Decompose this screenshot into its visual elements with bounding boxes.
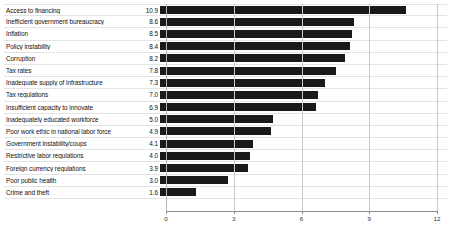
bar	[160, 164, 248, 172]
value-label: 6.9	[132, 104, 160, 111]
bar-cell	[160, 89, 447, 100]
bar-cell	[160, 5, 447, 15]
bar	[160, 30, 352, 38]
bar-cell	[160, 102, 447, 113]
value-label: 7.3	[132, 79, 160, 86]
bar-cell	[160, 77, 447, 88]
bar-cell	[160, 41, 447, 52]
bar-cell	[160, 16, 447, 27]
chart-row: Insufficient capacity to innovate6.9	[4, 102, 447, 114]
chart-row: Government instability/coups4.1	[4, 138, 447, 150]
bar-cell	[160, 150, 447, 161]
x-tick-0	[166, 211, 167, 214]
category-label: Inflation	[4, 30, 132, 37]
bar-cell	[160, 162, 447, 173]
category-label: Access to financing	[4, 7, 132, 14]
chart-row: Crime and theft1.6	[4, 187, 447, 199]
category-label: Crime and theft	[4, 189, 132, 196]
bar	[160, 67, 336, 75]
bar	[160, 115, 273, 123]
chart-row: Foreign currency regulations3.9	[4, 162, 447, 174]
value-label: 8.6	[132, 18, 160, 25]
chart-row: Access to financing10.9	[4, 4, 447, 16]
bar	[160, 42, 350, 50]
value-label: 3.9	[132, 165, 160, 172]
x-axis: 036912	[166, 211, 437, 229]
category-label: Tax rates	[4, 67, 132, 74]
value-label: 8.4	[132, 43, 160, 50]
category-label: Poor work ethic in national labor force	[4, 128, 132, 135]
bar	[160, 91, 318, 99]
chart-row: Poor public health3.0	[4, 175, 447, 187]
chart-row: Inflation8.5	[4, 28, 447, 40]
category-label: Restrictive labor regulations	[4, 152, 132, 159]
x-tick-label: 0	[164, 215, 167, 222]
value-label: 7.8	[132, 67, 160, 74]
value-label: 10.9	[132, 7, 160, 14]
category-label: Inadequate supply of infrastructure	[4, 79, 132, 86]
x-tick-9	[369, 211, 370, 214]
bar	[160, 152, 250, 160]
chart-row: Corruption8.2	[4, 53, 447, 65]
value-label: 8.2	[132, 55, 160, 62]
x-tick-12	[437, 211, 438, 214]
bar	[160, 176, 228, 184]
value-label: 4.0	[132, 152, 160, 159]
chart-row: Restrictive labor regulations4.0	[4, 150, 447, 162]
chart-row: Inadequate supply of infrastructure7.3	[4, 77, 447, 89]
chart-row: Inefficient government bureaucracy8.6	[4, 16, 447, 28]
x-tick-6	[302, 211, 303, 214]
bar-cell	[160, 175, 447, 186]
category-label: Policy instability	[4, 43, 132, 50]
value-label: 5.0	[132, 116, 160, 123]
bar-cell	[160, 114, 447, 125]
category-label: Corruption	[4, 55, 132, 62]
bar	[160, 18, 354, 26]
value-label: 4.9	[132, 128, 160, 135]
bar	[160, 127, 271, 135]
chart-row: Policy instability8.4	[4, 41, 447, 53]
category-label: Poor public health	[4, 177, 132, 184]
bar-cell	[160, 65, 447, 76]
value-label: 7.0	[132, 91, 160, 98]
bar	[160, 103, 316, 111]
category-label: Government instability/coups	[4, 140, 132, 147]
bar	[160, 6, 406, 14]
bar-cell	[160, 28, 447, 39]
value-label: 8.5	[132, 30, 160, 37]
bar-cell	[160, 53, 447, 64]
bar	[160, 188, 196, 196]
category-label: Insufficient capacity to innovate	[4, 104, 132, 111]
category-label: Tax regulations	[4, 91, 132, 98]
value-label: 4.1	[132, 140, 160, 147]
value-label: 3.0	[132, 177, 160, 184]
category-label: Inefficient government bureaucracy	[4, 18, 132, 25]
category-label: Inadequately educated workforce	[4, 116, 132, 123]
x-tick-label: 6	[300, 215, 303, 222]
value-label: 1.6	[132, 189, 160, 196]
x-tick-3	[234, 211, 235, 214]
bar-cell	[160, 126, 447, 137]
category-label: Foreign currency regulations	[4, 165, 132, 172]
chart-rows: Access to financing10.9Inefficient gover…	[4, 4, 447, 211]
chart-row: Tax regulations7.0	[4, 89, 447, 101]
bar-chart: Access to financing10.9Inefficient gover…	[0, 0, 451, 229]
x-tick-label: 3	[232, 215, 235, 222]
bar-cell	[160, 187, 447, 198]
chart-row: Poor work ethic in national labor force4…	[4, 126, 447, 138]
x-tick-label: 12	[434, 215, 441, 222]
chart-row: Tax rates7.8	[4, 65, 447, 77]
x-tick-label: 9	[368, 215, 371, 222]
bar-cell	[160, 138, 447, 149]
chart-row: Inadequately educated workforce5.0	[4, 114, 447, 126]
bar	[160, 140, 253, 148]
bar	[160, 79, 325, 87]
bar	[160, 54, 345, 62]
